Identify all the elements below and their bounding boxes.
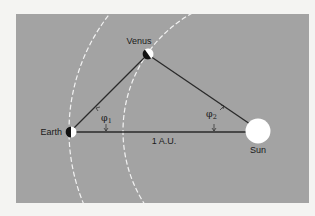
earth-label: Earth — [40, 127, 62, 137]
sun-body — [246, 119, 271, 144]
earth-body — [66, 127, 77, 138]
diagram-panel — [16, 14, 309, 203]
venus-label: Venus — [126, 36, 152, 46]
baseline-label: 1 A.U. — [152, 136, 177, 146]
venus-orbit-diagram: φ1 φ2 1 A.U. Earth Venus Sun — [0, 0, 315, 216]
sun-label: Sun — [250, 145, 266, 155]
